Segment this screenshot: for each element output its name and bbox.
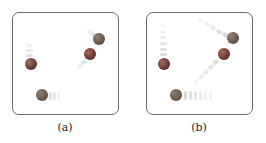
particle — [170, 89, 182, 101]
particle — [93, 33, 105, 45]
caption-b: (b) — [179, 121, 219, 134]
caption-a: (a) — [45, 121, 85, 134]
particle — [218, 48, 230, 60]
particle — [84, 48, 96, 60]
particle — [158, 58, 170, 70]
particle — [36, 89, 48, 101]
particle — [227, 32, 239, 44]
particle — [25, 58, 37, 70]
